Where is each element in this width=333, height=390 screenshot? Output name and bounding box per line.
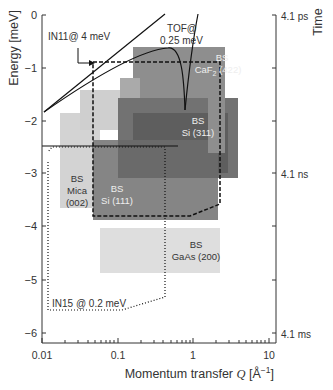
y2-tick-labels: 4.1 ps 4.1 ns 4.1 ms [281,11,311,340]
svg-text:−4: −4 [24,220,37,232]
tof-label-1: TOF@ [167,23,197,34]
svg-text:10: 10 [263,349,275,361]
svg-text:−2: −2 [24,115,37,127]
svg-text:−6: −6 [24,327,37,339]
regions [60,47,238,273]
svg-text:BS: BS [111,183,124,194]
svg-text:GaAs (200): GaAs (200) [172,251,221,262]
svg-text:4.1 ns: 4.1 ns [281,169,308,180]
svg-text:−3: −3 [24,167,37,179]
svg-text:0.01: 0.01 [32,349,53,361]
x-axis-title: Momentum transfer Q [Å−1] [125,365,274,381]
x-tick-labels: 0.01 0.1 1 10 [32,349,275,361]
svg-text:−1: −1 [24,62,37,74]
svg-text:BS: BS [71,173,84,184]
svg-text:1: 1 [190,349,196,361]
svg-text:BS: BS [190,239,203,250]
svg-text:4.1 ms: 4.1 ms [281,329,311,340]
svg-text:(002): (002) [66,197,88,208]
svg-text:−5: −5 [24,274,37,286]
svg-text:Si (111): Si (111) [101,195,133,206]
svg-text:Si (311): Si (311) [182,127,215,138]
y2-axis-title: Time [311,8,325,35]
in11-label: IN11@ 4 meV [48,31,111,42]
in11-arrow [78,48,93,63]
svg-text:BS: BS [216,52,229,63]
arrow-head-icon [89,60,95,66]
in15-label: IN15 @ 0.2 meV [52,298,126,309]
svg-text:4.1 ps: 4.1 ps [281,11,308,22]
x-ticks [42,338,269,343]
y-tick-labels: 0 −1 −2 −3 −4 −5 −6 [24,9,37,339]
y-axis-title: Energy [meV] [7,10,21,86]
tof-label-2: 0.25 meV [160,35,203,46]
svg-text:0: 0 [31,9,37,21]
svg-text:Mica: Mica [67,185,88,196]
svg-text:BS: BS [192,115,205,126]
svg-text:0.1: 0.1 [111,349,126,361]
chart: 0 −1 −2 −3 −4 −5 −6 0.01 0.1 1 10 4.1 ps… [0,0,333,390]
